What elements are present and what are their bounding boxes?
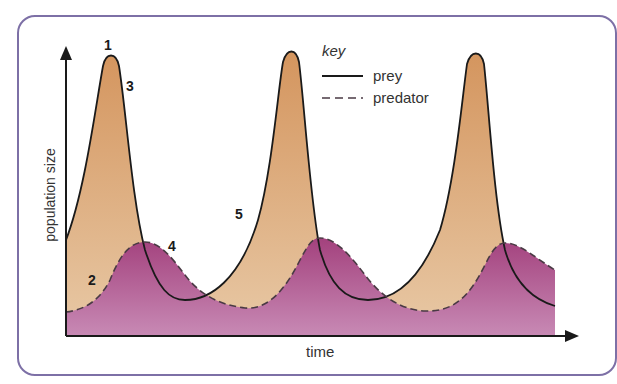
y-axis-label: population size [42, 148, 58, 241]
x-axis-arrow-icon [565, 330, 579, 342]
annotation-5: 5 [235, 206, 243, 222]
y-axis-arrow-icon [60, 46, 72, 60]
legend-predator-label: predator [373, 89, 429, 106]
annotation-4: 4 [168, 238, 176, 254]
annotation-1: 1 [104, 37, 112, 53]
legend-prey-label: prey [373, 67, 402, 84]
x-axis-label: time [306, 343, 334, 360]
legend-title: key [322, 42, 345, 59]
annotation-2: 2 [88, 272, 96, 288]
annotation-3: 3 [126, 78, 134, 94]
